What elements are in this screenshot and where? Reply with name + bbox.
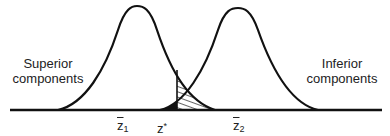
inferior-label-line1: Inferior bbox=[297, 56, 387, 71]
inferior-components-label: Inferior components bbox=[297, 56, 387, 86]
superior-label-line1: Superior bbox=[2, 56, 94, 71]
z1-mean-label: z1 bbox=[117, 119, 129, 136]
inferior-label-line2: components bbox=[297, 71, 387, 86]
superior-components-label: Superior components bbox=[2, 56, 94, 86]
hatched-region bbox=[177, 40, 237, 110]
z1-subscript: 1 bbox=[124, 124, 129, 134]
z2-subscript: 2 bbox=[240, 124, 245, 134]
inferior-distribution-curve bbox=[160, 8, 318, 110]
zstar-label: z* bbox=[157, 119, 167, 136]
z2-mean-label: z2 bbox=[233, 119, 245, 136]
zstar-superscript: * bbox=[164, 121, 168, 131]
superior-label-line2: components bbox=[2, 71, 94, 86]
